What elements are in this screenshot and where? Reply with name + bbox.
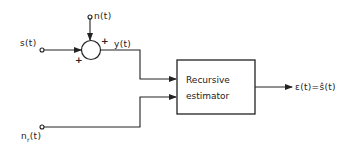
reference-noise-line xyxy=(40,97,176,129)
y-signal-line xyxy=(101,50,177,79)
signal-input-line xyxy=(40,48,81,52)
block-label-line1: Recursive xyxy=(186,72,254,88)
summing-junction xyxy=(82,41,101,60)
noise-label: n(t) xyxy=(94,11,111,21)
plus-sign-left: + xyxy=(75,56,83,65)
output-label: ε(t)=ŝ(t) xyxy=(295,82,336,92)
reference-noise-label: nr(t) xyxy=(21,131,41,145)
block-label-line2: estimator xyxy=(186,88,254,104)
plus-sign-top: + xyxy=(101,37,109,46)
y-signal-label: y(t) xyxy=(114,39,131,49)
block-label: Recursive estimator xyxy=(178,72,254,104)
diagram-canvas xyxy=(0,0,352,145)
noise-input-line xyxy=(88,15,92,40)
signal-label: s(t) xyxy=(20,38,36,48)
